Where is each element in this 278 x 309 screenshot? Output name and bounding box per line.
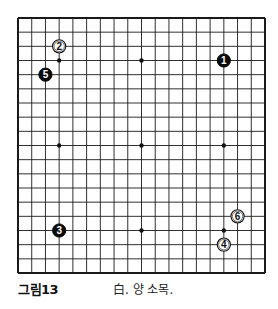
go-board: 123456 <box>0 0 278 278</box>
figure-label: 그림13 <box>18 279 58 298</box>
white-stone: 4 <box>217 238 230 251</box>
stone-number: 6 <box>235 211 241 222</box>
star-point <box>139 58 143 62</box>
stone-number: 3 <box>56 225 62 236</box>
star-point <box>139 228 143 232</box>
stone-number: 5 <box>43 69 49 80</box>
star-point <box>222 228 226 232</box>
black-stone: 5 <box>39 68 52 81</box>
figure-caption: 白. 양 소목. <box>113 280 173 297</box>
star-point <box>57 143 61 147</box>
star-point <box>222 143 226 147</box>
black-stone: 1 <box>217 54 230 67</box>
white-stone: 2 <box>53 40 66 53</box>
white-stone: 6 <box>231 210 244 223</box>
star-point <box>57 58 61 62</box>
black-stone: 3 <box>53 224 66 237</box>
stone-number: 2 <box>56 41 62 52</box>
stone-number: 1 <box>221 55 227 66</box>
star-point <box>139 143 143 147</box>
stone-number: 4 <box>221 239 227 250</box>
